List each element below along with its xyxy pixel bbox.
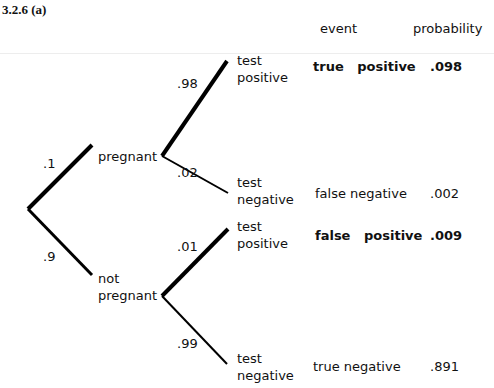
prob-pregnant: .1: [43, 155, 55, 172]
prob-notpreg-neg: .99: [177, 335, 198, 352]
node-pregnant: pregnant: [98, 148, 157, 165]
outcome-1-line1: test: [237, 52, 262, 69]
prob-preg-neg: .02: [177, 164, 198, 181]
outcome-3-line2: positive: [237, 235, 288, 252]
outcome-1-probability: .098: [430, 58, 462, 75]
prob-notpreg-pos: .01: [177, 238, 198, 255]
branch-notpreg-neg: [162, 296, 227, 364]
outcome-4-event: true negative: [313, 358, 401, 375]
outcome-3-line1: test: [237, 218, 262, 235]
outcome-1-line2: positive: [237, 69, 288, 86]
column-header-event: event: [320, 20, 357, 37]
node-not-pregnant-2: pregnant: [98, 287, 157, 304]
outcome-1-event: true positive: [313, 58, 416, 75]
outcome-4-probability: .891: [430, 358, 459, 375]
outcome-4-line1: test: [237, 350, 262, 367]
outcome-2-line2: negative: [237, 191, 294, 208]
branch-not-pregnant: [28, 209, 92, 275]
prob-preg-pos: .98: [177, 75, 198, 92]
column-header-probability: probability: [413, 20, 482, 37]
outcome-2-event: false negative: [315, 185, 407, 202]
outcome-3-event: false positive: [315, 227, 422, 244]
node-not-pregnant-1: not: [98, 270, 119, 287]
outcome-2-line1: test: [237, 174, 262, 191]
outcome-2-probability: .002: [430, 185, 459, 202]
prob-not-pregnant: .9: [43, 248, 55, 265]
branch-pregnant: [28, 145, 92, 209]
outcome-4-line2: negative: [237, 367, 294, 384]
outcome-3-probability: .009: [430, 227, 462, 244]
